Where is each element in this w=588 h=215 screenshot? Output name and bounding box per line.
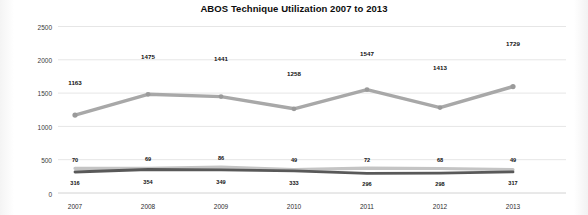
data-label-s3-2013: 49	[495, 157, 531, 163]
data-label-s2-2007: 316	[57, 180, 93, 186]
data-label-s3-2009: 86	[203, 155, 239, 161]
data-label-s2-2009: 349	[203, 179, 239, 185]
data-label-s2-2008: 354	[130, 179, 166, 185]
data-label-s1-2007: 1163	[57, 79, 93, 86]
data-label-s2-2012: 298	[422, 181, 458, 187]
x-axis-tick-2010: 2010	[274, 203, 314, 210]
data-label-s1-2009: 1441	[203, 55, 239, 62]
x-axis-tick-2008: 2008	[128, 203, 168, 210]
data-label-s1-2013: 1729	[495, 40, 531, 47]
data-label-s3-2012: 68	[422, 157, 458, 163]
data-label-s3-2008: 69	[130, 156, 166, 162]
x-axis-tick-2013: 2013	[493, 203, 533, 210]
data-label-s2-2011: 296	[349, 181, 385, 187]
series-line-1	[72, 84, 515, 118]
data-label-s2-2010: 333	[276, 180, 312, 186]
data-label-s2-2013: 317	[495, 180, 531, 186]
data-label-s1-2012: 1413	[422, 64, 458, 71]
data-label-s1-2011: 1547	[349, 50, 385, 57]
data-label-s3-2007: 70	[57, 157, 93, 163]
x-axis-tick-2012: 2012	[420, 203, 460, 210]
data-label-s3-2011: 72	[349, 157, 385, 163]
x-axis-tick-2011: 2011	[347, 203, 387, 210]
x-axis-tick-2009: 2009	[201, 203, 241, 210]
data-label-s3-2010: 49	[276, 157, 312, 163]
chart-container: ABOS Technique Utilization 2007 to 2013 …	[0, 0, 588, 215]
x-axis-tick-2007: 2007	[55, 203, 95, 210]
data-label-s1-2010: 1258	[276, 70, 312, 77]
data-label-s1-2008: 1475	[130, 53, 166, 60]
